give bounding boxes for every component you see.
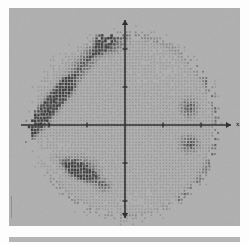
- scatter-plot-canvas: [9, 8, 240, 226]
- panel-edge-tick-mark: [11, 196, 12, 218]
- x-axis-label: x: [236, 121, 240, 128]
- figure-root: x: [0, 0, 249, 244]
- bottom-border-strip: [9, 237, 240, 242]
- plot-panel: x: [9, 8, 240, 226]
